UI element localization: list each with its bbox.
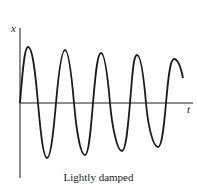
x-axis-label: t (187, 103, 191, 115)
figure-caption: Lightly damped (0, 171, 197, 183)
damped-oscillation-plot: x t (0, 0, 197, 185)
y-axis-label: x (10, 22, 16, 34)
